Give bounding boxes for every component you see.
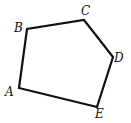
vertex-label-b: B [13,21,23,35]
vertex-label-e: E [94,107,104,121]
pentagon-diagram: A B C D E [0,0,131,123]
vertex-label-c: C [81,4,90,18]
diagram-canvas: A B C D E [0,0,131,123]
pentagon-shape [19,20,113,107]
vertex-label-d: D [113,51,124,65]
vertex-label-a: A [4,85,14,99]
